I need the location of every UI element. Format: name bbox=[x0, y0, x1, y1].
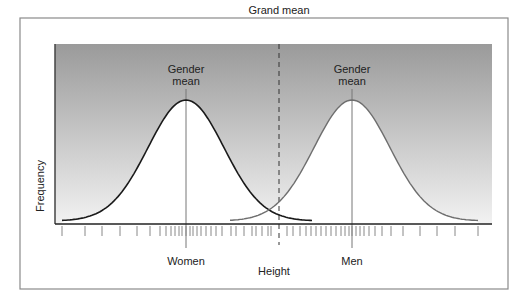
distribution-figure: Grand mean Gender mean Gender mean Frequ… bbox=[0, 0, 520, 306]
women-label: Women bbox=[167, 255, 205, 267]
men-gender-mean-label-1: Gender bbox=[334, 63, 371, 75]
women-gender-mean-label-1: Gender bbox=[168, 63, 205, 75]
women-gender-mean-label-2: mean bbox=[172, 75, 200, 87]
y-axis-label: Frequency bbox=[34, 160, 46, 212]
men-label: Men bbox=[341, 255, 362, 267]
x-axis-label: Height bbox=[258, 265, 290, 277]
men-gender-mean-label-2: mean bbox=[338, 75, 366, 87]
grand-mean-label: Grand mean bbox=[248, 4, 309, 16]
